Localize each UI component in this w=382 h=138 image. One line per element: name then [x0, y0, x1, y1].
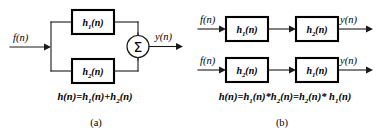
- panel-a-sigma-symbol: Σ: [134, 39, 143, 55]
- panel-b-row1-input-label: f(n): [200, 14, 216, 26]
- panel-b-row1-output-label: y(n): [339, 14, 357, 26]
- panel-a-input-arrowhead: [44, 44, 51, 51]
- panel-b: h1(n) h2(n) f(n) y(n) h2(n) h1(n: [198, 14, 373, 129]
- panel-a-block-h1-label: h1(n): [82, 17, 103, 30]
- panel-a-input-label: f(n): [13, 32, 29, 44]
- panel-b-row2-block2-label: h1(n): [306, 65, 327, 78]
- panel-a: h1(n) h2(n) Σ f(n) y(n) h(n)=: [10, 10, 183, 129]
- panel-b-row2-output-label: y(n): [339, 55, 357, 67]
- panel-a-block-h2-label: h2(n): [82, 66, 103, 79]
- panel-a-output-arrowhead: [176, 43, 183, 50]
- figure-root: h1(n) h2(n) Σ f(n) y(n) h(n)=: [0, 0, 382, 138]
- panel-b-row1-block1-label: h1(n): [236, 24, 257, 37]
- panel-b-row1-input-arrowhead: [219, 26, 226, 33]
- panel-b-row2-input-arrowhead: [219, 67, 226, 74]
- panel-a-caption: (a): [90, 117, 102, 129]
- panel-a-output-label: y(n): [154, 31, 172, 43]
- panel-b-row-1: h1(n) h2(n) f(n) y(n): [198, 14, 373, 41]
- panel-b-row-2: h2(n) h1(n) f(n) y(n): [198, 55, 373, 82]
- panel-b-caption: (b): [276, 117, 289, 129]
- panel-b-row2-block1-label: h2(n): [236, 65, 257, 78]
- panel-b-equation: h(n)=h1(n)*h2(n)=h2(n)* h1(n): [219, 91, 352, 105]
- panel-b-row2-input-label: f(n): [200, 55, 216, 67]
- panel-b-row2-output-arrowhead: [366, 67, 373, 74]
- panel-b-row1-output-arrowhead: [366, 26, 373, 33]
- panel-a-equation: h(n)=h1(n)+h2(n): [57, 91, 132, 105]
- block-diagram-canvas: h1(n) h2(n) Σ f(n) y(n) h(n)=: [0, 0, 382, 138]
- panel-b-row1-block2-label: h2(n): [306, 24, 327, 37]
